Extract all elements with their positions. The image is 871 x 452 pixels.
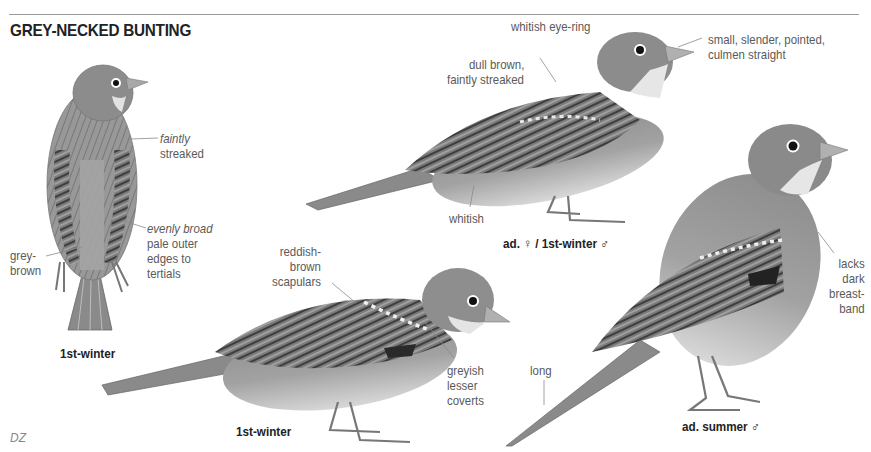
caption-back-view: 1st-winter (60, 346, 115, 361)
label-eye-ring: whitish eye-ring (511, 19, 590, 34)
label-faintly-streaked: faintlystreaked (160, 131, 204, 161)
plate-illustrations (0, 0, 871, 452)
label-tertials: evenly broad pale outer edges to tertial… (147, 221, 213, 281)
caption-adult-female: ad. ♀ / 1st-winter ♂ (503, 236, 609, 251)
label-breast-band: lacks dark breast- band (828, 256, 865, 316)
caption-adult-summer-male: ad. summer ♂ (682, 419, 760, 434)
bird-first-winter-side (102, 268, 510, 442)
artist-credit: DZ (10, 431, 26, 445)
label-whitish: whitish (449, 211, 484, 226)
label-long-tail: long (530, 363, 552, 378)
bird-back-view (47, 65, 148, 330)
label-lesser-coverts: greyish lesser coverts (447, 363, 484, 408)
label-dull-brown: dull brown,faintly streaked (447, 57, 524, 87)
label-scapulars: reddish- brown scapulars (272, 244, 321, 289)
label-bill: small, slender, pointed,culmen straight (708, 32, 825, 62)
label-grey-brown: grey-brown (10, 248, 41, 278)
caption-first-winter-side: 1st-winter (236, 424, 291, 439)
